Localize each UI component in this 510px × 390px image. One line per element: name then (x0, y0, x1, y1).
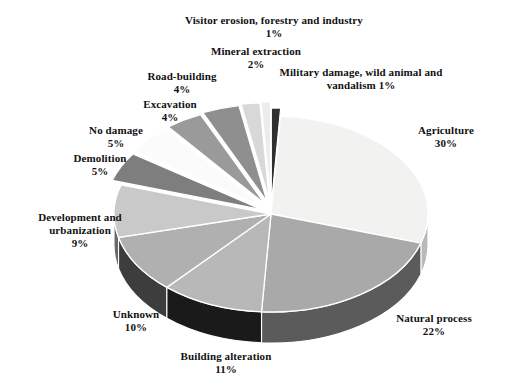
slice-label-text: Mineral extraction (168, 45, 344, 58)
slice-value-text: 30% (390, 137, 502, 150)
slice-value-text: 1% (167, 27, 381, 40)
slice-label-demolition: Demolition 5% (36, 152, 164, 178)
slice-label-agriculture: Agriculture 30% (390, 124, 502, 150)
slice-label-text: Unknown (78, 308, 194, 321)
slice-label-text: Building alteration (150, 350, 302, 363)
slice-value-text: 9% (12, 237, 148, 250)
slice-value-text: 11% (150, 363, 302, 376)
slice-label-text: Visitor erosion, forestry and industry (167, 14, 381, 27)
slice-label-text: Demolition (36, 152, 164, 165)
slice-label-text: Natural process (368, 312, 500, 325)
slice-label-road-building: Road-building 4% (118, 70, 246, 96)
slice-label-excavation: Excavation 4% (106, 98, 234, 124)
slice-label-unknown: Unknown 10% (78, 308, 194, 334)
slice-label-natural-process: Natural process 22% (368, 312, 500, 338)
slice-label-text: Military damage, wild animal and (262, 66, 460, 79)
slice-label-text: Development and urbanization (12, 211, 148, 237)
slice-value-text: 4% (118, 83, 246, 96)
slice-label-military-damage: Military damage, wild animal and vandali… (262, 66, 460, 92)
slice-value-text: 5% (36, 165, 164, 178)
slice-value-text: 10% (78, 321, 194, 334)
slice-label-no-damage: No damage 5% (52, 124, 180, 150)
slice-label-text: Road-building (118, 70, 246, 83)
slice-label-text: Agriculture (390, 124, 502, 137)
slice-label-visitor-erosion: Visitor erosion, forestry and industry 1… (167, 14, 381, 40)
pie-chart-figure: Visitor erosion, forestry and industry 1… (0, 0, 510, 390)
slice-value-text: 4% (106, 111, 234, 124)
slice-label-building-alteration: Building alteration 11% (150, 350, 302, 376)
slice-value-text: vandalism 1% (262, 79, 460, 92)
slice-value-text: 22% (368, 325, 500, 338)
slice-label-text: Excavation (106, 98, 234, 111)
slice-label-development-urbanization: Development and urbanization 9% (12, 211, 148, 250)
slice-value-text: 5% (52, 137, 180, 150)
slice-label-text: No damage (52, 124, 180, 137)
